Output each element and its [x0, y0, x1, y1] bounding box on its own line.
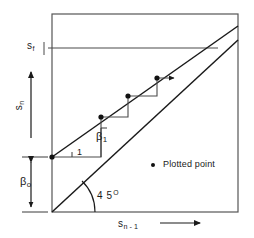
diagram-canvas: [0, 0, 254, 238]
slope-run-label: 1: [77, 148, 82, 157]
plotted-point-dot: [151, 163, 155, 167]
plotted-point-dot: [98, 114, 103, 119]
plotted-point-dot: [49, 154, 54, 159]
legend-label: Plotted point: [163, 160, 215, 169]
x-axis-label-subscript: n - 1: [123, 222, 138, 231]
plotted-point-dot: [154, 75, 159, 80]
intercept-subscript: o: [26, 180, 31, 189]
plot-frame: [52, 14, 238, 212]
angle-label: 4 5O: [97, 190, 119, 201]
intercept-label: βo: [20, 176, 31, 189]
degree-symbol: O: [113, 189, 119, 196]
fixed-point-label: sf: [27, 41, 35, 52]
slope-subscript: 1: [102, 135, 107, 144]
fixed-point-subscript: f: [32, 44, 35, 53]
y-axis-label-subscript: n: [17, 101, 26, 106]
y-axis-label: sn: [14, 84, 25, 128]
slope-label: β1: [96, 131, 107, 144]
cobweb-diagram-figure: sf sn βo β1 1 4 5O Plotted point sn - 1: [0, 0, 254, 238]
x-axis-label: sn - 1: [118, 219, 138, 230]
plotted-point-dot: [125, 93, 130, 98]
